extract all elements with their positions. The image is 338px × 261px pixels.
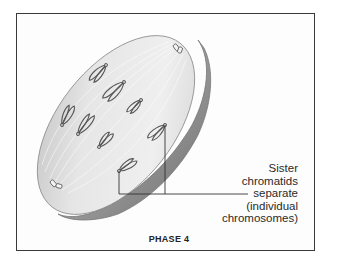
figure-title: PHASE 4 [0,234,338,244]
annotation-line: chromosomes) [222,212,298,225]
annotation-line: (individual [222,200,298,213]
annotation-line: separate [222,187,298,200]
annotation-label: Sister chromatids separate (individual c… [222,162,298,225]
annotation-line: Sister [222,162,298,175]
annotation-line: chromatids [222,175,298,188]
